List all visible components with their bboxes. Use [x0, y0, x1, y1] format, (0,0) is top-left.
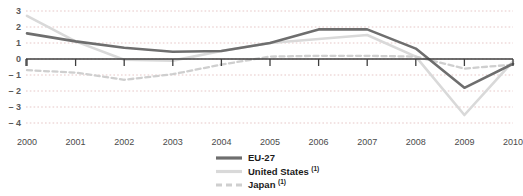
x-axis-tick-label: 2003 [163, 137, 183, 147]
legend-label-eu-27[interactable]: EU-27 [248, 152, 275, 163]
x-axis-tick-label: 2008 [406, 137, 426, 147]
x-axis-tick-label: 2006 [309, 137, 329, 147]
y-axis-tick-label: 1 [16, 38, 21, 48]
x-axis-tick-label: 2010 [503, 137, 523, 147]
y-axis-tick-label: – 2 [8, 86, 21, 96]
y-axis-tick-label: – 4 [8, 118, 21, 128]
legend-label-japan[interactable]: Japan(1) [248, 178, 286, 190]
y-axis-tick-label: 0 [16, 54, 21, 64]
x-axis-tick-label: 2004 [211, 137, 231, 147]
x-axis-tick-label: 2001 [66, 137, 86, 147]
y-axis-tick-label: 3 [16, 6, 21, 16]
legend-label-united-states[interactable]: United States(1) [248, 164, 319, 176]
x-axis-tick-label: 2002 [114, 137, 134, 147]
x-axis-tick-label: 2007 [357, 137, 377, 147]
line-chart: 3210– 1– 2– 3– 4200020012002200320042005… [0, 0, 523, 196]
y-axis-tick-label: 2 [16, 22, 21, 32]
chart-container: 3210– 1– 2– 3– 4200020012002200320042005… [0, 0, 523, 196]
x-axis-tick-label: 2000 [17, 137, 37, 147]
x-axis-tick-label: 2009 [454, 137, 474, 147]
y-axis-tick-label: – 3 [8, 102, 21, 112]
x-axis-tick-label: 2005 [260, 137, 280, 147]
y-axis-tick-label: – 1 [8, 70, 21, 80]
